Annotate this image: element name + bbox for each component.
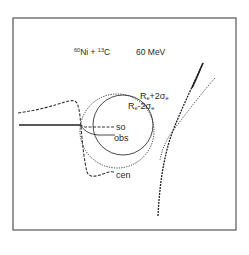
- plus-sign: +: [88, 47, 98, 57]
- ni-symbol: Ni: [80, 47, 88, 57]
- so-label: so: [116, 123, 126, 132]
- so-curve: [80, 125, 115, 127]
- inner-circle-label: Re-2σe: [128, 102, 154, 112]
- energy-label: 60 MeV: [136, 48, 165, 57]
- cen-curve: [18, 101, 114, 177]
- cen-label: cen: [116, 171, 131, 180]
- trajectory-solid: [158, 63, 203, 216]
- reaction-label: 60Ni + 13C: [74, 48, 110, 57]
- trajectory-dotted: [160, 78, 215, 160]
- obs-label: obs: [114, 134, 129, 143]
- c-symbol: C: [104, 47, 110, 57]
- trajectory-solid-top: [192, 63, 203, 88]
